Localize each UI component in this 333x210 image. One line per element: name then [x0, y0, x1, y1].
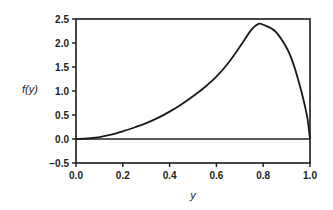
series-line-f-y	[76, 23, 310, 139]
x-axis-label: y	[189, 189, 197, 201]
y-tick-label: −0.5	[49, 158, 69, 169]
x-tick-label: 0.2	[116, 170, 130, 181]
y-tick-label: 1.5	[55, 62, 69, 73]
chart: −0.50.00.51.01.52.02.5 0.00.20.40.60.81.…	[0, 0, 333, 210]
plot-border	[76, 19, 310, 163]
plot-frame	[76, 19, 310, 163]
y-axis-ticks: −0.50.00.51.01.52.02.5	[49, 14, 76, 169]
x-tick-label: 0.0	[69, 170, 83, 181]
y-tick-label: 1.0	[55, 86, 69, 97]
y-tick-label: 2.5	[55, 14, 69, 25]
y-tick-label: 0.5	[55, 110, 69, 121]
x-tick-label: 0.4	[163, 170, 177, 181]
x-tick-label: 1.0	[303, 170, 317, 181]
y-tick-label: 2.0	[55, 38, 69, 49]
x-tick-label: 0.6	[209, 170, 223, 181]
x-axis-ticks: 0.00.20.40.60.81.0	[69, 163, 317, 181]
y-tick-label: 0.0	[55, 134, 69, 145]
x-tick-label: 0.8	[256, 170, 270, 181]
y-axis-label: f(y)	[22, 83, 38, 95]
